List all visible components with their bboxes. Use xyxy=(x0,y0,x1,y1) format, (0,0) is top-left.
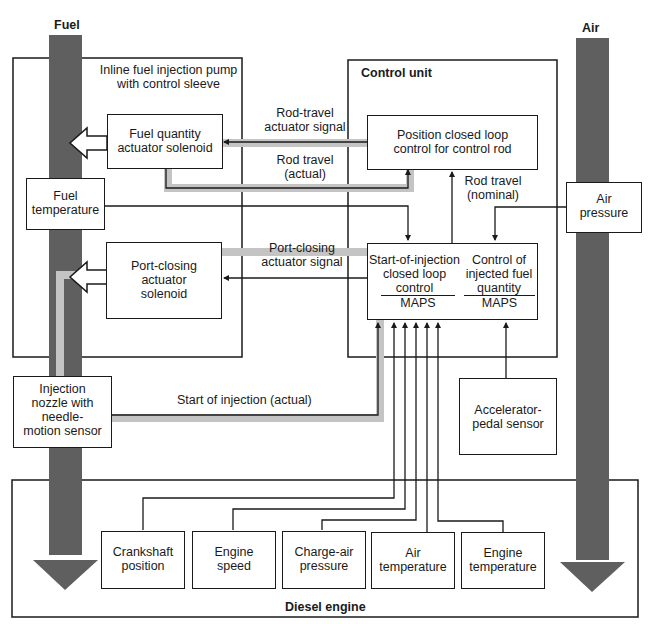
charge-air-pressure-block[interactable]: Charge-air pressure xyxy=(282,531,366,589)
air-flow-arrow xyxy=(560,38,625,592)
engine-title: Diesel engine xyxy=(285,600,366,614)
signal-label-line: actuator signal xyxy=(255,120,355,134)
injected-fuel-control: Control of injected fuel quantity MAPS xyxy=(461,253,537,310)
block-label: Fuel quantity actuator solenoid xyxy=(108,127,222,155)
block-label: Crankshaft position xyxy=(102,545,184,573)
block-label-line: temperature xyxy=(372,560,454,574)
signal-label-line: Rod travel xyxy=(458,174,528,188)
air-pressure-block[interactable]: Air pressure xyxy=(566,182,642,233)
port-closing-signal-label: Port-closing actuator signal xyxy=(252,241,352,269)
port-closing-solenoid-block[interactable]: Port-closing actuator solenoid xyxy=(106,242,222,319)
block-label-line: Fuel quantity xyxy=(108,127,222,141)
rod-travel-actual-label: Rod travel (actual) xyxy=(255,153,355,181)
block-label: Position closed loop control for control… xyxy=(368,128,537,156)
block-label-line: temperature xyxy=(27,203,104,217)
ecu-maps-block[interactable]: Start-of-injection closed loop control M… xyxy=(367,243,538,320)
block-label-line: pressure xyxy=(283,559,365,573)
block-label-line: pedal sensor xyxy=(460,417,556,431)
block-label-line: Control of xyxy=(461,253,537,267)
block-label-line: temperature xyxy=(462,560,544,574)
signal-label-line: (nominal) xyxy=(458,188,528,202)
block-label-line: position xyxy=(102,559,184,573)
rod-travel-nominal-label: Rod travel (nominal) xyxy=(458,174,528,202)
block-label-line: Accelerator- xyxy=(460,403,556,417)
start-of-injection-control: Start-of-injection closed loop control M… xyxy=(368,253,461,310)
start-of-injection-actual-label: Start of injection (actual) xyxy=(177,393,312,407)
block-label-line: actuator xyxy=(107,273,221,287)
block-label-line: Air xyxy=(567,192,641,206)
pump-title: Inline fuel injection pump with control … xyxy=(96,63,241,91)
block-label-line: Air xyxy=(372,546,454,560)
fuel-flow-arrow xyxy=(33,35,98,590)
signal-label-line: Port-closing xyxy=(252,241,352,255)
block-label: Engine speed xyxy=(193,545,275,573)
block-label-line: Start-of-injection xyxy=(368,253,461,267)
injection-nozzle-block[interactable]: Injection nozzle with needle- motion sen… xyxy=(13,376,112,448)
fuel-quantity-solenoid-block[interactable]: Fuel quantity actuator solenoid xyxy=(107,114,223,169)
fuel-temperature-block[interactable]: Fuel temperature xyxy=(26,178,105,230)
rod-travel-actuator-signal-label: Rod-travel actuator signal xyxy=(255,106,355,134)
fuel-flow-label: Fuel xyxy=(54,18,80,32)
signal-label-line: Rod-travel xyxy=(255,106,355,120)
block-label-line: Charge-air xyxy=(283,545,365,559)
position-control-block[interactable]: Position closed loop control for control… xyxy=(367,115,538,170)
signal-label-line: Rod travel xyxy=(255,153,355,167)
block-label-line: Fuel xyxy=(27,189,104,203)
injected-fuel-maps: MAPS xyxy=(464,295,535,310)
block-label-line: control for control rod xyxy=(368,142,537,156)
block-label-line: Injection xyxy=(14,382,111,396)
block-label-line: nozzle with xyxy=(14,396,111,410)
block-label-line: pressure xyxy=(567,206,641,220)
block-label-line: quantity xyxy=(461,281,537,295)
air-temperature-block[interactable]: Air temperature xyxy=(371,532,455,589)
crankshaft-position-block[interactable]: Crankshaft position xyxy=(101,531,185,589)
control-unit-title: Control unit xyxy=(361,66,432,80)
block-label-line: Position closed loop xyxy=(368,128,537,142)
block-label: Fuel temperature xyxy=(27,189,104,217)
block-label-line: control xyxy=(368,281,461,295)
engine-speed-block[interactable]: Engine speed xyxy=(192,531,276,589)
block-label: Air pressure xyxy=(567,192,641,220)
block-label: Charge-air pressure xyxy=(283,545,365,573)
block-label: Injection nozzle with needle- motion sen… xyxy=(14,382,111,438)
pump-title-line: Inline fuel injection pump xyxy=(96,63,241,77)
block-label-line: speed xyxy=(193,559,275,573)
block-label-line: Engine xyxy=(462,546,544,560)
engine-temperature-block[interactable]: Engine temperature xyxy=(461,532,545,589)
accelerator-pedal-block[interactable]: Accelerator- pedal sensor xyxy=(459,378,557,455)
block-label-line: Engine xyxy=(193,545,275,559)
pump-title-line: with control sleeve xyxy=(96,77,241,91)
air-flow-label: Air xyxy=(582,21,599,35)
block-label-line: needle- xyxy=(14,410,111,424)
block-label-line: closed loop xyxy=(368,267,461,281)
block-label: Air temperature xyxy=(372,546,454,574)
signal-label-line: actuator signal xyxy=(252,255,352,269)
block-label: Engine temperature xyxy=(462,546,544,574)
block-label: Port-closing actuator solenoid xyxy=(107,259,221,301)
block-label-line: solenoid xyxy=(107,287,221,301)
block-label-line: motion sensor xyxy=(14,424,111,438)
start-of-injection-maps: MAPS xyxy=(381,295,455,310)
block-label-line: injected fuel xyxy=(461,267,537,281)
signal-label-line: (actual) xyxy=(255,167,355,181)
block-label-line: actuator solenoid xyxy=(108,141,222,155)
block-label: Accelerator- pedal sensor xyxy=(460,403,556,431)
block-label-line: Port-closing xyxy=(107,259,221,273)
block-label-line: Crankshaft xyxy=(102,545,184,559)
